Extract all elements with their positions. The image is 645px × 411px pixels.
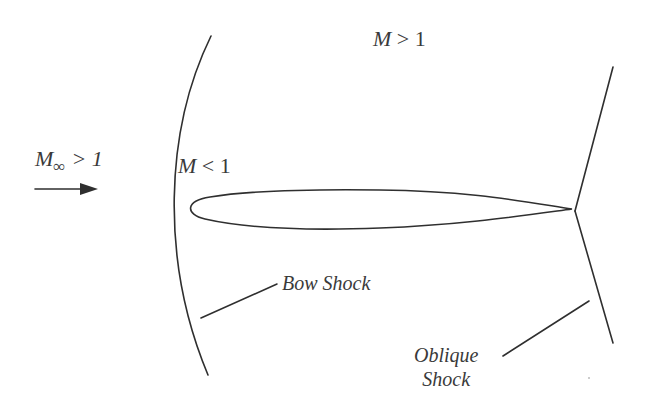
shock-diagram — [0, 0, 645, 411]
bow-shock-curve — [174, 36, 211, 375]
oblique-shock-label-line2: Shock — [414, 367, 478, 391]
bow-shock-leader-line — [201, 284, 277, 318]
oblique-shock-upper — [575, 67, 613, 211]
oblique-shock-label: Oblique Shock — [414, 343, 478, 391]
subsonic-region-label: M < 1 — [178, 155, 231, 177]
freestream-mach-label: M∞> 1 — [35, 148, 103, 170]
mach-symbol: M — [35, 146, 53, 171]
subsonic-condition: < 1 — [196, 153, 230, 178]
infinity-subscript: ∞ — [53, 157, 65, 176]
airfoil — [191, 190, 572, 229]
oblique-shock-label-line1: Oblique — [414, 343, 478, 367]
supersonic-region-label: M > 1 — [373, 28, 426, 50]
speck — [588, 377, 590, 379]
oblique-shock-leader-line — [503, 301, 589, 356]
mach-symbol: M — [178, 153, 196, 178]
supersonic-condition: > 1 — [391, 26, 425, 51]
arrow-right-icon — [80, 183, 98, 195]
freestream-condition: > 1 — [71, 146, 102, 171]
bow-shock-label: Bow Shock — [282, 273, 370, 293]
mach-symbol: M — [373, 26, 391, 51]
oblique-shock-lower — [575, 211, 613, 343]
